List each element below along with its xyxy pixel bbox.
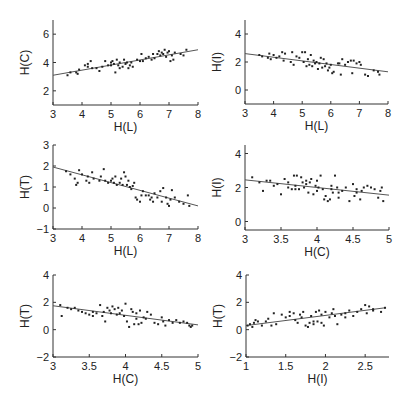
data-point xyxy=(162,53,164,55)
data-point xyxy=(344,64,346,66)
data-point xyxy=(289,315,291,317)
data-point xyxy=(273,312,275,314)
data-point xyxy=(116,59,118,61)
data-point xyxy=(138,323,140,325)
data-point xyxy=(340,74,342,76)
regression-line xyxy=(245,180,389,195)
data-point xyxy=(308,64,310,66)
data-point xyxy=(151,59,153,61)
data-point xyxy=(298,57,300,59)
data-point xyxy=(379,190,381,192)
data-point xyxy=(130,188,132,190)
data-point xyxy=(84,64,86,66)
regression-line xyxy=(246,308,385,326)
data-point xyxy=(172,59,174,61)
x-tick-label: 5 xyxy=(108,232,114,244)
x-tick-label: 3 xyxy=(242,233,248,245)
data-point xyxy=(323,58,325,60)
data-point xyxy=(317,187,319,189)
data-point xyxy=(77,182,79,184)
data-point xyxy=(128,326,130,328)
data-point xyxy=(313,60,315,62)
data-point xyxy=(300,176,302,178)
data-point xyxy=(366,185,368,187)
y-axis-label: H(I) xyxy=(210,52,224,72)
panel-top-right: 345678024H(L)H(I) xyxy=(210,20,391,133)
data-point xyxy=(104,320,106,322)
data-point xyxy=(257,320,259,322)
x-tick-label: 8 xyxy=(195,108,201,120)
data-point xyxy=(337,62,339,64)
data-point xyxy=(69,173,71,175)
data-point xyxy=(103,168,105,170)
data-point xyxy=(305,325,307,327)
data-point xyxy=(101,315,103,317)
x-tick-label: 1.5 xyxy=(278,360,293,372)
x-tick-label: 5 xyxy=(386,233,392,245)
data-point xyxy=(85,312,87,314)
data-point xyxy=(188,205,190,207)
data-point xyxy=(381,187,383,189)
data-point xyxy=(270,58,272,60)
data-point xyxy=(85,180,87,182)
data-point xyxy=(191,325,193,327)
data-point xyxy=(266,180,268,182)
data-point xyxy=(353,60,355,62)
data-point xyxy=(310,315,312,317)
data-point xyxy=(107,182,109,184)
data-point xyxy=(267,318,269,320)
data-point xyxy=(109,310,111,312)
x-tick-label: 7 xyxy=(166,108,172,120)
data-point xyxy=(98,180,100,182)
y-axis-label: H(T) xyxy=(18,175,32,199)
data-point xyxy=(294,319,296,321)
x-tick-label: 1 xyxy=(243,360,249,372)
data-point xyxy=(324,311,326,313)
data-point xyxy=(331,312,333,314)
data-point xyxy=(374,188,376,190)
data-point xyxy=(146,311,148,313)
data-point xyxy=(261,325,263,327)
data-point xyxy=(276,183,278,185)
data-point xyxy=(294,185,296,187)
data-point xyxy=(377,71,379,73)
data-point xyxy=(175,319,177,321)
data-point xyxy=(139,310,141,312)
data-point xyxy=(132,185,134,187)
data-point xyxy=(384,307,386,309)
y-axis-label: H(C) xyxy=(18,50,32,75)
x-tick-label: 4 xyxy=(314,233,320,245)
data-point xyxy=(372,308,374,310)
regression-line xyxy=(53,167,198,206)
data-point xyxy=(341,190,343,192)
data-point xyxy=(356,311,358,313)
panel-bottom-left: 33.544.55−2024H(C)H(T) xyxy=(18,269,201,386)
data-point xyxy=(352,315,354,317)
data-point xyxy=(317,68,319,70)
data-point xyxy=(269,180,271,182)
data-point xyxy=(312,193,314,195)
data-point xyxy=(318,310,320,312)
data-point xyxy=(251,176,253,178)
data-point xyxy=(106,307,108,309)
data-point xyxy=(336,187,338,189)
x-axis-label: H(L) xyxy=(114,244,137,258)
x-tick-label: 3.5 xyxy=(273,233,288,245)
data-point xyxy=(187,194,189,196)
data-point xyxy=(338,192,340,194)
data-point xyxy=(380,311,382,313)
data-point xyxy=(78,69,80,71)
panel-top-left: 345678246H(L)H(C) xyxy=(18,20,201,134)
y-tick-label: 4 xyxy=(235,148,241,160)
data-point xyxy=(359,198,361,200)
x-axis-label: H(C) xyxy=(113,372,138,386)
data-point xyxy=(313,323,315,325)
y-tick-label: 2 xyxy=(43,296,49,308)
data-point xyxy=(143,316,145,318)
data-point xyxy=(119,182,121,184)
x-tick-label: 6 xyxy=(137,232,143,244)
data-point xyxy=(302,181,304,183)
data-point xyxy=(283,60,285,62)
data-point xyxy=(132,311,134,313)
data-point xyxy=(129,186,131,188)
